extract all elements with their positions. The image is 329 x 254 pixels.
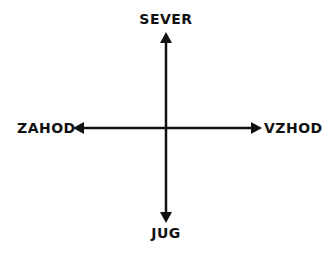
compass-diagram: SEVER JUG ZAHOD VZHOD: [0, 0, 329, 254]
west-label: ZAHOD: [17, 121, 76, 135]
east-arrow-icon: [251, 122, 262, 134]
north-arrow-icon: [160, 32, 172, 43]
south-arrow-icon: [160, 212, 172, 223]
north-label: SEVER: [135, 12, 197, 26]
east-label: VZHOD: [264, 121, 323, 135]
south-label: JUG: [142, 226, 190, 240]
